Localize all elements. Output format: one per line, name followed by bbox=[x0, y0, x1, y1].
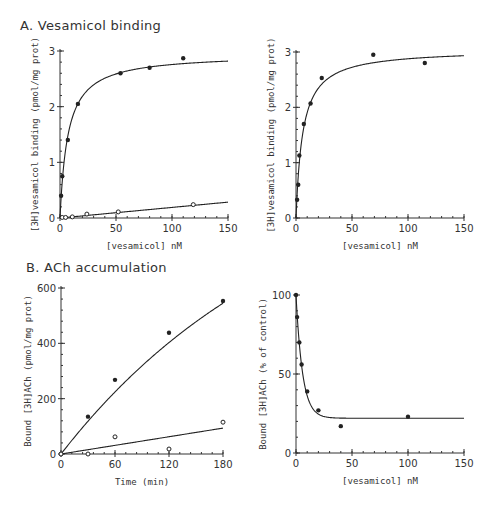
series-nonspecific-binding bbox=[60, 202, 228, 219]
y-tick-label: 2 bbox=[285, 102, 291, 113]
data-point bbox=[320, 76, 324, 80]
x-tick-label: 0 bbox=[293, 223, 299, 234]
x-tick-label: 180 bbox=[213, 459, 232, 470]
fit-curve bbox=[296, 295, 464, 418]
y-tick-label: 1 bbox=[285, 158, 291, 169]
y-tick-label: 400 bbox=[37, 338, 56, 349]
data-point bbox=[116, 210, 120, 214]
data-point bbox=[295, 315, 299, 319]
y-tick-label: 0 bbox=[285, 448, 291, 459]
data-point bbox=[296, 183, 300, 187]
y-tick-label: 3 bbox=[285, 47, 291, 58]
data-point bbox=[297, 153, 301, 157]
chart-A-left: 0501001500123[vesamicol] nM[3H]vesamicol… bbox=[30, 37, 238, 251]
data-point bbox=[221, 299, 225, 303]
chart-A-right: 0501001500123[vesamicol] nM[3H]vesamicol… bbox=[266, 37, 474, 251]
data-point bbox=[64, 215, 68, 219]
series-inhibition bbox=[294, 293, 464, 429]
data-point bbox=[70, 215, 74, 219]
data-point bbox=[339, 424, 343, 428]
data-point bbox=[60, 174, 64, 178]
x-axis-label: Time (min) bbox=[115, 477, 169, 487]
data-point bbox=[294, 293, 298, 297]
y-tick-label: 600 bbox=[37, 283, 56, 294]
data-point bbox=[147, 66, 151, 70]
x-tick-label: 150 bbox=[454, 458, 473, 469]
chart-B-left: 0601201800200400600Time (min)Bound [3H]A… bbox=[23, 283, 233, 487]
data-point bbox=[66, 138, 70, 142]
data-point bbox=[113, 435, 117, 439]
data-point bbox=[118, 71, 122, 75]
fit-curve bbox=[60, 61, 228, 218]
y-tick-label: 0 bbox=[50, 449, 56, 460]
data-point bbox=[59, 452, 63, 456]
x-tick-label: 100 bbox=[398, 223, 417, 234]
series-total-binding bbox=[59, 56, 228, 218]
data-point bbox=[406, 414, 410, 418]
figure-plots: 0501001500123[vesamicol] nM[3H]vesamicol… bbox=[0, 0, 501, 510]
data-point bbox=[221, 420, 225, 424]
x-tick-label: 50 bbox=[346, 223, 359, 234]
y-tick-label: 50 bbox=[278, 369, 291, 380]
y-tick-label: 100 bbox=[272, 290, 291, 301]
x-axis-label: [vesamicol] nM bbox=[106, 241, 182, 251]
data-point bbox=[85, 212, 89, 216]
y-axis-label: Bound [3H]ACh (pmol/mg prot) bbox=[23, 295, 33, 447]
data-point bbox=[113, 378, 117, 382]
fit-curve bbox=[61, 303, 223, 454]
data-point bbox=[423, 61, 427, 65]
data-point bbox=[167, 331, 171, 335]
x-tick-label: 60 bbox=[109, 459, 122, 470]
x-axis-label: [vesamicol] nM bbox=[342, 476, 418, 486]
fit-curve bbox=[61, 428, 223, 454]
x-tick-label: 0 bbox=[58, 459, 64, 470]
x-tick-label: 0 bbox=[293, 458, 299, 469]
y-tick-label: 2 bbox=[49, 102, 55, 113]
y-axis-label: [3H]vesamicol binding (pmol/mg prot) bbox=[30, 37, 40, 232]
data-point bbox=[86, 452, 90, 456]
y-axis-label: Bound [3H]ACh (% of control) bbox=[258, 298, 268, 450]
series-control bbox=[59, 299, 225, 456]
y-tick-label: 3 bbox=[49, 46, 55, 57]
data-point bbox=[191, 203, 195, 207]
x-tick-label: 100 bbox=[398, 458, 417, 469]
chart-B-right: 050100150050100[vesamicol] nMBound [3H]A… bbox=[258, 290, 474, 486]
data-point bbox=[86, 414, 90, 418]
data-point bbox=[371, 53, 375, 57]
data-point bbox=[297, 340, 301, 344]
x-axis-label: [vesamicol] nM bbox=[342, 241, 418, 251]
x-tick-label: 120 bbox=[159, 459, 178, 470]
x-tick-label: 50 bbox=[346, 458, 359, 469]
data-point bbox=[302, 122, 306, 126]
x-tick-label: 0 bbox=[57, 223, 63, 234]
data-point bbox=[181, 56, 185, 60]
x-tick-label: 100 bbox=[162, 223, 181, 234]
data-point bbox=[167, 447, 171, 451]
x-tick-label: 50 bbox=[110, 223, 123, 234]
y-tick-label: 0 bbox=[49, 213, 55, 224]
y-tick-label: 1 bbox=[49, 157, 55, 168]
data-point bbox=[59, 194, 63, 198]
y-tick-label: 200 bbox=[37, 394, 56, 405]
data-point bbox=[308, 101, 312, 105]
data-point bbox=[305, 389, 309, 393]
data-point bbox=[76, 102, 80, 106]
x-tick-label: 150 bbox=[218, 223, 237, 234]
data-point bbox=[316, 408, 320, 412]
data-point bbox=[295, 198, 299, 202]
y-axis-label: [3H]vesamicol binding (pmol/mg prot) bbox=[266, 37, 276, 232]
data-point bbox=[299, 362, 303, 366]
series-specific-binding bbox=[295, 53, 464, 218]
x-tick-label: 150 bbox=[454, 223, 473, 234]
y-tick-label: 0 bbox=[285, 213, 291, 224]
